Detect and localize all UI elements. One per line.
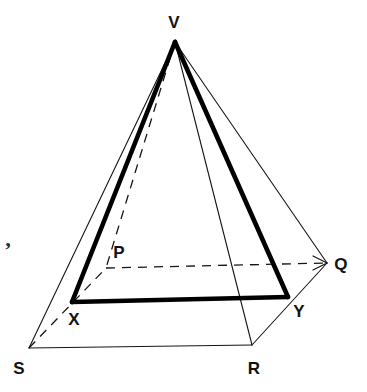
vertex-label-S: S <box>13 360 25 377</box>
edge-base-S-to-P-hidden <box>29 268 106 348</box>
scan-artifact-mark: ’ <box>4 239 11 261</box>
edge-apex-to-P-hidden <box>106 42 175 268</box>
edge-base-P-to-Q-hidden <box>106 263 327 268</box>
vertex-label-Q: Q <box>334 256 347 273</box>
vertex-label-V: V <box>168 14 180 31</box>
vertex-label-Y: Y <box>293 303 305 320</box>
edge-section-X-to-Y-bold <box>72 297 288 302</box>
vertex-label-X: X <box>68 311 80 328</box>
edge-base-R-to-Q <box>252 263 327 345</box>
edge-apex-to-Y-bold <box>175 42 288 297</box>
vertex-label-P: P <box>113 244 125 261</box>
edge-apex-to-X-bold <box>72 42 175 302</box>
edge-base-S-to-R <box>29 345 252 348</box>
vertex-label-R: R <box>248 360 260 377</box>
geometry-figure: V S R Q P X Y ’ <box>0 0 367 392</box>
pyramid-diagram-svg <box>0 0 367 392</box>
edge-apex-to-Q <box>175 42 327 263</box>
